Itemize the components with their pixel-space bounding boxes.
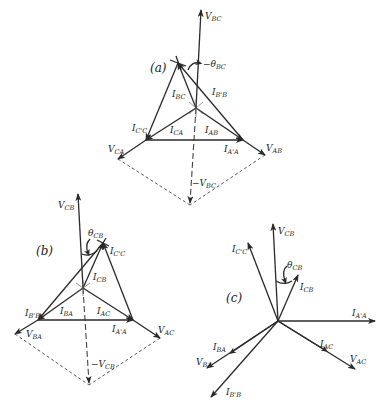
phasor-neg-v-bc (190, 108, 196, 203)
panel-b-label: (b) (36, 244, 53, 258)
label-v-ab: VAB (266, 143, 282, 155)
label-neg-v-bc: −VBC (192, 178, 216, 190)
label-v-ac: VAC (350, 354, 366, 366)
node-tick (170, 56, 186, 70)
panel-b: (b) VCB −VCB VBA VAC ICB IBA IAC IC'C IB… (15, 194, 174, 385)
construction-line (118, 159, 190, 205)
phasor-v-cb (78, 194, 83, 288)
phasor-v-cb (273, 224, 278, 321)
phasor-i-ac (278, 321, 325, 350)
angle-leader (87, 239, 90, 253)
label-i-bpb: IB'B (24, 308, 40, 320)
phasor-i-ca (146, 108, 196, 140)
label-v-bc: VBC (205, 11, 221, 23)
phasor-neg-v-cb (83, 288, 89, 383)
label-v-cb: VCB (58, 200, 74, 212)
label-theta-cb: θCB (287, 260, 302, 272)
label-i-ba: IBA (59, 306, 73, 318)
label-i-ba: IBA (212, 342, 226, 354)
panel-c: (c) VCB IC'C ICB IA'A IAC VAC IBA VBA IB… (196, 224, 375, 399)
phasor-i-cpc (248, 243, 278, 321)
node-tick (189, 99, 203, 117)
label-i-ac: IAC (319, 339, 333, 351)
label-i-cpc: IC'C (231, 244, 247, 256)
node-tick (76, 280, 90, 296)
label-i-cpc: IC'C (109, 246, 125, 258)
label-v-ac: VAC (158, 325, 174, 337)
label-i-apa: IA'A (111, 324, 127, 336)
label-theta-cb: θCB (88, 228, 103, 240)
label-i-bpb: IB'B (211, 87, 227, 99)
label-i-cb: ICB (92, 272, 107, 284)
label-neg-v-cb: −VCB (91, 359, 115, 371)
label-i-cb: ICB (299, 282, 314, 294)
label-v-ba: VBA (26, 329, 42, 341)
phasor-diagram-figure: (a) VBC −VBC VCA VAB IBC ICA IAB IC'C IB… (0, 0, 384, 410)
label-v-ba: VBA (196, 357, 212, 369)
phasor-i-cb (278, 275, 298, 321)
label-i-apa: IA'A (351, 308, 367, 320)
label-i-bpb: IB'B (225, 387, 241, 399)
label-v-cb: VCB (278, 226, 294, 238)
panel-c-label: (c) (226, 291, 242, 305)
label-i-apa: IA'A (223, 144, 239, 156)
label-i-ca: ICA (169, 125, 184, 137)
label-i-ab: IAB (204, 125, 218, 137)
phasor-v-ab (243, 140, 265, 155)
label-i-ac: IAC (96, 306, 110, 318)
label-v-ca: VCA (108, 144, 124, 156)
construction-line (15, 334, 89, 385)
panel-a: (a) VBC −VBC VCA VAB IBC ICA IAB IC'C IB… (108, 10, 282, 205)
panel-a-label: (a) (150, 61, 167, 75)
label-i-bc: IBC (171, 89, 185, 101)
angle-arc-theta-cb (276, 281, 292, 283)
phasor-v-ac (133, 320, 160, 338)
label-i-cpc: IC'C (131, 123, 147, 135)
phasor-v-bc (196, 10, 201, 108)
label-theta-bc: −θBC (203, 59, 226, 71)
angle-arc-theta-cb (82, 251, 97, 255)
